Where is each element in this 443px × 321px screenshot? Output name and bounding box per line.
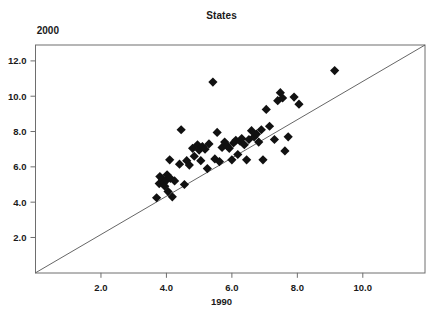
y-tick-label: 8.0 — [13, 126, 26, 137]
y-tick-label: 2.0 — [13, 232, 26, 243]
data-point-marker — [330, 66, 339, 75]
data-point-marker — [270, 135, 279, 144]
data-point-marker — [152, 193, 161, 202]
x-tick-label: 6.0 — [225, 282, 238, 293]
x-tick-label: 4.0 — [160, 282, 173, 293]
data-point-marker — [242, 155, 251, 164]
data-point-marker — [203, 164, 212, 173]
data-point-marker — [289, 92, 298, 101]
data-point-marker — [258, 155, 267, 164]
scatter-plot-canvas: 2.04.06.08.010.0 2.04.06.08.010.012.0 — [0, 0, 443, 321]
data-point-marker — [262, 105, 271, 114]
data-point-marker — [233, 150, 242, 159]
data-point-marker — [294, 100, 303, 109]
data-point-marker — [208, 77, 217, 86]
data-point-marker — [280, 146, 289, 155]
y-axis-ticks: 2.04.06.08.010.012.0 — [8, 55, 36, 243]
data-point-marker — [213, 128, 222, 137]
data-point-marker — [284, 132, 293, 141]
x-tick-label: 10.0 — [354, 282, 373, 293]
y-tick-label: 6.0 — [13, 161, 26, 172]
x-tick-label: 8.0 — [291, 282, 304, 293]
y-tick-label: 4.0 — [13, 197, 26, 208]
data-point-marker — [265, 122, 274, 131]
y-tick-label: 12.0 — [8, 55, 27, 66]
chart-figure: States 2000 1990 2.04.06.08.010.0 2.04.0… — [0, 0, 443, 321]
data-point-series — [152, 66, 339, 202]
x-tick-label: 2.0 — [94, 282, 107, 293]
data-point-marker — [165, 155, 174, 164]
data-point-marker — [177, 125, 186, 134]
y-tick-label: 10.0 — [8, 91, 27, 102]
x-axis-ticks: 2.04.06.08.010.0 — [94, 273, 372, 293]
